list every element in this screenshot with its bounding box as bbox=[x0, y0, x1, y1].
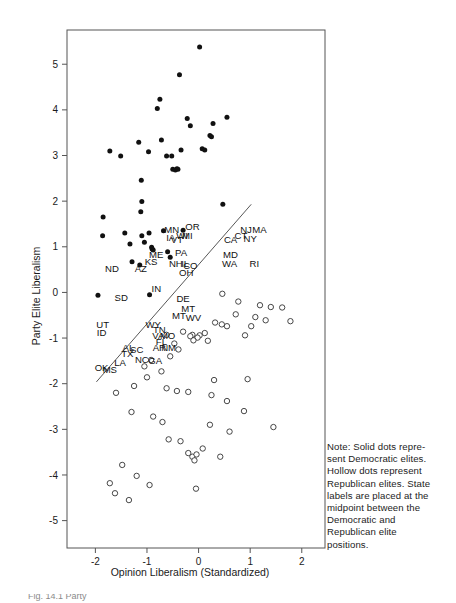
figure-note: Note: Solid dots repre-sent Democratic e… bbox=[327, 441, 453, 551]
svg-text:-4: -4 bbox=[49, 470, 58, 481]
note-line: sent Democratic elites. bbox=[327, 453, 453, 465]
note-line: Hollow dots represent bbox=[327, 465, 453, 477]
note-line: Democratic and bbox=[327, 514, 453, 526]
note-line: Republican elites. State bbox=[327, 478, 453, 490]
svg-text:ME: ME bbox=[149, 249, 163, 260]
svg-text:PA: PA bbox=[175, 247, 188, 258]
svg-text:IN: IN bbox=[151, 283, 161, 294]
svg-text:-1: -1 bbox=[49, 333, 58, 344]
svg-text:2: 2 bbox=[52, 196, 58, 207]
state-labels: NDSDUTIDOKMSLATXALSCNCGAAZKSINWYTNVAFLAR… bbox=[95, 221, 268, 375]
svg-text:ID: ID bbox=[97, 327, 107, 338]
svg-text:NC: NC bbox=[135, 354, 149, 365]
caption-fragment: Fig. 14.1 Party bbox=[28, 594, 87, 601]
svg-text:0: 0 bbox=[52, 287, 58, 298]
svg-text:WV: WV bbox=[186, 312, 202, 323]
note-line: positions. bbox=[327, 539, 453, 551]
svg-text:GA: GA bbox=[148, 355, 162, 366]
svg-text:MA: MA bbox=[252, 224, 267, 235]
svg-text:-5: -5 bbox=[49, 515, 58, 526]
svg-text:MO: MO bbox=[160, 330, 175, 341]
svg-text:SD: SD bbox=[115, 292, 128, 303]
note-line: Republican elite bbox=[327, 526, 453, 538]
svg-text:4: 4 bbox=[52, 104, 58, 115]
svg-text:1: 1 bbox=[52, 241, 58, 252]
svg-text:RI: RI bbox=[250, 258, 260, 269]
svg-text:-3: -3 bbox=[49, 424, 58, 435]
svg-text:3: 3 bbox=[52, 150, 58, 161]
note-line: Note: Solid dots repre- bbox=[327, 441, 453, 453]
svg-text:WA: WA bbox=[222, 258, 238, 269]
x-axis-title: Opinion Liberalism (Standardized) bbox=[56, 566, 324, 578]
svg-text:NM: NM bbox=[161, 342, 176, 353]
caption-strip: Fig. 14.1 Party bbox=[0, 594, 456, 603]
svg-text:OR: OR bbox=[185, 221, 199, 232]
note-line: midpoint between the bbox=[327, 502, 453, 514]
plot-frame bbox=[67, 30, 325, 548]
note-line: labels are placed at the bbox=[327, 490, 453, 502]
svg-text:5: 5 bbox=[52, 59, 58, 70]
svg-text:-2: -2 bbox=[49, 378, 58, 389]
y-axis-title: Party Elite Liberalism bbox=[30, 216, 42, 376]
svg-text:ND: ND bbox=[105, 263, 119, 274]
scatter-figure: -5-4-3-2-1012345-2-1012 NDSDUTIDOKMSLATX… bbox=[0, 0, 456, 603]
svg-text:MT: MT bbox=[172, 310, 186, 321]
svg-text:OH: OH bbox=[179, 267, 193, 278]
republican-points bbox=[107, 291, 293, 503]
